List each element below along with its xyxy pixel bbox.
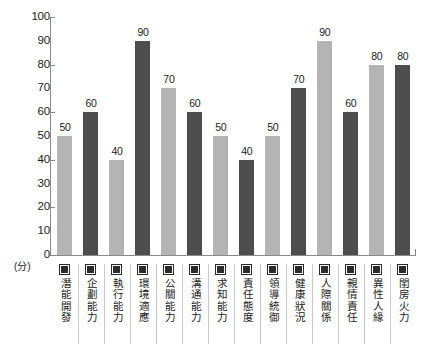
category-label-text: 潛能開發 [59, 278, 71, 324]
category-label-text: 公關能力 [163, 278, 175, 324]
category-label-cell: 潛能開發 [52, 262, 78, 348]
y-tick-mark [50, 255, 55, 256]
y-tick-label: 90 [6, 35, 50, 47]
bar [109, 160, 124, 255]
bar [187, 112, 202, 255]
bar [161, 88, 176, 255]
legend-swatch-icon [216, 265, 225, 274]
legend-swatch-icon [190, 265, 199, 274]
bar-value-label: 60 [336, 98, 366, 109]
category-label-cell: 企劃能力 [78, 262, 104, 348]
bar [395, 65, 410, 255]
category-label-text: 親情責任 [345, 278, 357, 324]
category-label-text: 企劃能力 [85, 278, 97, 324]
category-label-cell: 閨房火力 [390, 262, 416, 348]
y-tick-label: 60 [6, 106, 50, 118]
bar [83, 112, 98, 255]
category-label-text: 求知能力 [215, 278, 227, 324]
category-label-cell: 領導統御 [260, 262, 286, 348]
y-tick-label: 0 [6, 249, 50, 261]
legend-swatch-icon [398, 265, 407, 274]
category-label-text: 人際關係 [319, 278, 331, 324]
bar-value-label: 50 [258, 122, 288, 133]
y-axis-unit-label: (分) [14, 262, 31, 272]
legend-swatch-icon [86, 265, 95, 274]
y-tick-label: 50 [6, 130, 50, 142]
plot-area: 5060409070605040507090608080 [51, 17, 416, 255]
y-tick-label: 20 [6, 201, 50, 213]
category-label-text: 閨房火力 [397, 278, 409, 324]
bar [239, 160, 254, 255]
x-axis-category-labels: 潛能開發企劃能力執行能力環境適應公關能力溝通能力求知能力責任態度領導統御健康狀況… [51, 262, 416, 348]
legend-swatch-icon [268, 265, 277, 274]
bar-value-label: 40 [102, 146, 132, 157]
y-tick-label: 30 [6, 178, 50, 190]
legend-swatch-icon [242, 265, 251, 274]
legend-swatch-icon [138, 265, 147, 274]
category-label-text: 責任態度 [241, 278, 253, 324]
bar-value-label: 60 [76, 98, 106, 109]
bar-value-label: 90 [128, 27, 158, 38]
bar [369, 65, 384, 255]
bar [317, 41, 332, 255]
bar [135, 41, 150, 255]
legend-swatch-icon [346, 265, 355, 274]
legend-swatch-icon [60, 265, 69, 274]
bar [57, 136, 72, 255]
category-label-text: 領導統御 [267, 278, 279, 324]
category-label-text: 異性人緣 [371, 278, 383, 324]
legend-swatch-icon [372, 265, 381, 274]
y-tick-label: 70 [6, 82, 50, 94]
legend-swatch-icon [164, 265, 173, 274]
bar-value-label: 70 [154, 74, 184, 85]
category-label-text: 溝通能力 [189, 278, 201, 324]
bar-value-label: 70 [284, 74, 314, 85]
category-label-text: 環境適應 [137, 278, 149, 324]
y-tick-label: 100 [6, 11, 50, 23]
category-label-text: 執行能力 [111, 278, 123, 324]
bar-chart: 1009080706050403020100 50604090706050405… [0, 0, 429, 348]
category-label-cell: 責任態度 [234, 262, 260, 348]
bar [213, 136, 228, 255]
x-axis-line [50, 255, 416, 256]
bar-value-label: 50 [206, 122, 236, 133]
bar [343, 112, 358, 255]
category-label-cell: 執行能力 [104, 262, 130, 348]
bar [291, 88, 306, 255]
category-label-cell: 健康狀況 [286, 262, 312, 348]
category-label-cell: 求知能力 [208, 262, 234, 348]
y-tick-label: 80 [6, 59, 50, 71]
bar-value-label: 40 [232, 146, 262, 157]
legend-swatch-icon [294, 265, 303, 274]
bar-value-label: 60 [180, 98, 210, 109]
y-tick-label: 10 [6, 225, 50, 237]
category-label-cell: 溝通能力 [182, 262, 208, 348]
bar-value-label: 80 [388, 51, 418, 62]
category-label-text: 健康狀況 [293, 278, 305, 324]
y-tick-label: 40 [6, 154, 50, 166]
legend-swatch-icon [320, 265, 329, 274]
bar [265, 136, 280, 255]
category-label-cell: 環境適應 [130, 262, 156, 348]
bar-value-label: 90 [310, 27, 340, 38]
legend-swatch-icon [112, 265, 121, 274]
category-label-cell: 人際關係 [312, 262, 338, 348]
category-label-cell: 親情責任 [338, 262, 364, 348]
category-label-cell: 公關能力 [156, 262, 182, 348]
category-label-cell: 異性人緣 [364, 262, 390, 348]
bar-value-label: 50 [50, 122, 80, 133]
